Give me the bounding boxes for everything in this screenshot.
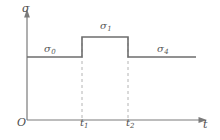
- sigma-final-symbol: σ: [157, 43, 164, 54]
- origin-label: O: [17, 117, 26, 128]
- sigma-initial-subscript: 0: [51, 48, 56, 56]
- sigma-final-subscript: 4: [164, 48, 169, 56]
- sigma-peak-subscript: 1: [107, 25, 112, 33]
- stress-time-diagram: σ t O σ0 σ1 σ4 t1 t2: [0, 0, 220, 140]
- x-tick-label-t1: t1: [80, 118, 89, 128]
- sigma-final-label: σ4: [157, 44, 169, 54]
- sigma-initial-symbol: σ: [44, 43, 51, 54]
- t2-subscript: 2: [130, 122, 134, 130]
- y-axis-label: σ: [22, 3, 30, 14]
- sigma-peak-symbol: σ: [100, 20, 107, 31]
- x-tick-label-t2: t2: [126, 118, 135, 128]
- t1-subscript: 1: [84, 122, 88, 130]
- x-axis-label: t: [203, 119, 207, 130]
- sigma-initial-label: σ0: [44, 44, 56, 54]
- sigma-peak-label: σ1: [100, 21, 112, 31]
